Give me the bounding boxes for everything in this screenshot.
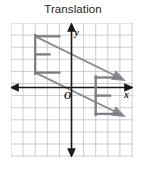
x-axis-arrow-left-icon: [11, 84, 18, 90]
origin-label: O: [64, 90, 71, 101]
coordinate-plane-svg: O x y: [11, 23, 133, 157]
axes: [11, 24, 132, 156]
coordinate-plane: O x y: [11, 23, 133, 157]
translation-arrow-bottom: [35, 73, 123, 116]
translation-figure: Translation: [0, 0, 146, 174]
figure-title: Translation: [0, 3, 146, 15]
x-axis-label: x: [123, 89, 129, 100]
y-axis-label: y: [74, 27, 80, 38]
translation-arrows: [35, 36, 123, 116]
y-axis-arrow-down-icon: [68, 149, 74, 156]
